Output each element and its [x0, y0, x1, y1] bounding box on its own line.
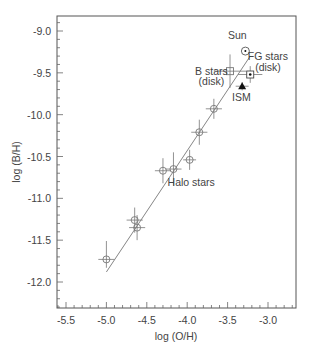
data-points: [98, 47, 262, 268]
y-axis-tick-labels: -9.0-9.5-10.0-10.5-11.0-11.5-12.0: [27, 25, 51, 288]
annotation-label: (disk): [255, 61, 281, 73]
y-tick-label: -9.0: [33, 25, 51, 37]
y-tick-label: -11.0: [28, 192, 51, 204]
center-dot: [244, 50, 246, 52]
y-axis-label: log (B/H): [10, 141, 22, 182]
fit-line: [106, 56, 250, 272]
annotations: SunFG stars(disk)B stars(disk)ISMHalo st…: [168, 29, 289, 187]
x-tick-label: -3.0: [259, 314, 277, 326]
y-tick-label: -10.5: [27, 151, 51, 163]
y-axis-ticks: [57, 23, 63, 307]
x-axis-tick-labels: -5.5-5.0-4.5-4.0-3.5-3.0: [57, 314, 277, 326]
x-axis-label: log (O/H): [155, 330, 198, 342]
y-tick-label: -12.0: [27, 276, 51, 288]
annotation-label: (disk): [199, 75, 225, 87]
x-tick-label: -3.5: [219, 314, 237, 326]
annotation-label: Halo stars: [168, 176, 215, 188]
x-tick-label: -4.0: [178, 314, 196, 326]
y-tick-label: -11.5: [28, 234, 51, 246]
triangle-marker: [238, 82, 246, 89]
y-tick-label: -10.0: [27, 109, 51, 121]
data-point: [236, 82, 249, 90]
x-axis-ticks: [58, 302, 292, 308]
data-point: [183, 150, 196, 170]
center-dot: [249, 73, 252, 76]
scatter-chart: -5.5-5.0-4.5-4.0-3.5-3.0 -9.0-9.5-10.0-1…: [0, 0, 309, 355]
x-tick-label: -5.5: [57, 314, 75, 326]
annotation-label: Sun: [228, 29, 247, 41]
x-tick-label: -4.5: [138, 314, 156, 326]
x-tick-label: -5.0: [97, 314, 115, 326]
y-tick-label: -9.5: [33, 67, 51, 79]
annotation-label: ISM: [232, 91, 251, 103]
